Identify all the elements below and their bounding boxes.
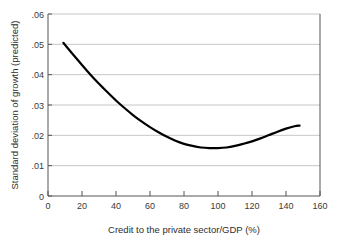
chart-figure: .06 .05 .04 .03 .02 .01 0 0 20 40 60 80 … bbox=[0, 0, 343, 241]
x-tick-label-6: 120 bbox=[244, 201, 259, 211]
y-tick-label-3: .03 bbox=[31, 101, 44, 111]
x-axis-title: Credit to the private sector/GDP (%) bbox=[108, 224, 260, 235]
y-tick-label-6: .06 bbox=[31, 10, 44, 20]
y-tick-labels: .06 .05 .04 .03 .02 .01 0 bbox=[31, 10, 44, 202]
y-axis-title: Standard deviation of growth (predicted) bbox=[9, 21, 20, 190]
x-tick-label-5: 100 bbox=[210, 201, 225, 211]
y-tick-label-4: .04 bbox=[31, 70, 44, 80]
y-tick-label-5: .05 bbox=[31, 40, 44, 50]
y-tick-label-0: 0 bbox=[39, 192, 44, 202]
x-tick-label-3: 60 bbox=[145, 201, 155, 211]
x-tick-label-1: 20 bbox=[77, 201, 87, 211]
x-tick-labels: 0 20 40 60 80 100 120 140 160 bbox=[45, 201, 327, 211]
standard-deviation-of-growth-line-chart: .06 .05 .04 .03 .02 .01 0 0 20 40 60 80 … bbox=[0, 0, 343, 241]
x-tick-label-0: 0 bbox=[45, 201, 50, 211]
x-tick-label-7: 140 bbox=[278, 201, 293, 211]
x-tick-label-2: 40 bbox=[111, 201, 121, 211]
x-tick-label-8: 160 bbox=[312, 201, 327, 211]
y-tick-label-2: .02 bbox=[31, 131, 44, 141]
y-tick-label-1: .01 bbox=[31, 161, 44, 171]
x-tick-label-4: 80 bbox=[179, 201, 189, 211]
